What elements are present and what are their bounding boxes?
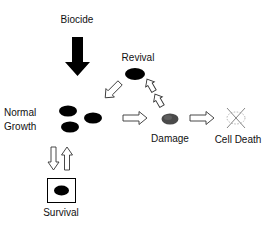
damage-label: Damage (151, 133, 189, 144)
survival-box-icon (48, 179, 76, 203)
revival-cell-icon (125, 68, 145, 80)
biocide-label: Biocide (61, 14, 94, 25)
revival-to-growth-arrow-icon (101, 79, 124, 102)
biocide-arrow-icon (65, 37, 90, 76)
normal-growth-label: Normal Growth (4, 107, 39, 132)
normal-growth-label-line2: Growth (4, 121, 36, 132)
damaged-cell-icon (162, 114, 179, 125)
dead-cell-icon (227, 108, 245, 128)
survival-to-growth-arrow-icon (62, 147, 73, 170)
revival-label: Revival (122, 52, 155, 63)
growth-to-damage-arrow-icon (123, 112, 147, 125)
normal-growth-label-line1: Normal (4, 107, 36, 118)
cell-death-label: Cell Death (215, 134, 262, 145)
damage-to-death-arrow-icon (190, 112, 214, 125)
survival-label: Survival (43, 207, 79, 218)
diagram-canvas: Biocide Revival Normal Growth Damage (0, 0, 273, 227)
normal-growth-cells-icon (59, 106, 102, 133)
damage-to-revival-arrow-icon (143, 77, 167, 109)
growth-to-survival-arrow-icon (48, 147, 59, 170)
